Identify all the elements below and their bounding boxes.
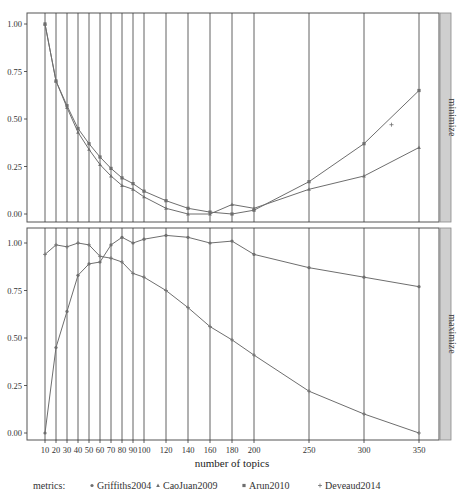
square-marker [164, 199, 167, 202]
y-tick-label: 0.25 [7, 381, 22, 391]
circle-marker [76, 274, 79, 277]
y-tick-label: 0.75 [7, 286, 22, 296]
circle-marker [164, 234, 167, 237]
x-tick-label: 60 [96, 445, 105, 455]
x-tick-label: 50 [85, 445, 94, 455]
square-marker [417, 89, 420, 92]
strip-label-minimize: minimize [447, 99, 457, 137]
legend-item-caojuan2009: CaoJuan2009 [156, 480, 217, 491]
y-tick-label: 0.50 [7, 114, 22, 124]
square-marker [131, 182, 134, 185]
legend: metrics: Griffiths2004CaoJuan2009Arun201… [33, 480, 381, 491]
legend-label: Arun2010 [249, 480, 290, 491]
legend-item-deveaud2014: Deveaud2014 [318, 480, 381, 491]
x-tick-label: 300 [358, 445, 371, 455]
x-axis: 1020304050607080901001201401601802002503… [41, 440, 426, 455]
legend-label: CaoJuan2009 [163, 480, 217, 491]
panel-minimize: 0.000.250.500.751.00minimize [7, 13, 457, 222]
square-marker [242, 484, 245, 487]
y-tick-label: 0.75 [7, 67, 22, 77]
legend-title: metrics: [33, 480, 65, 491]
x-tick-label: 100 [138, 445, 151, 455]
square-marker [87, 142, 90, 145]
x-tick-label: 350 [413, 445, 426, 455]
circle-marker [362, 276, 365, 279]
legend-label: Griffiths2004 [97, 480, 151, 491]
square-marker [362, 142, 365, 145]
circle-marker [65, 310, 68, 313]
x-tick-label: 180 [226, 445, 239, 455]
legend-item-arun2010: Arun2010 [242, 480, 289, 491]
strip-label-maximize: maximize [447, 314, 457, 354]
x-tick-label: 30 [63, 445, 72, 455]
x-tick-label: 120 [160, 445, 173, 455]
legend-item-griffiths2004: Griffiths2004 [90, 480, 151, 491]
circle-marker [142, 238, 145, 241]
circle-marker [208, 241, 211, 244]
circle-marker [43, 431, 46, 434]
x-tick-label: 250 [303, 445, 316, 455]
triangle-marker [156, 484, 160, 487]
y-tick-label: 0.00 [7, 209, 22, 219]
x-tick-label: 90 [129, 445, 138, 455]
x-tick-label: 200 [248, 445, 261, 455]
circle-marker [131, 241, 134, 244]
panel-maximize: 0.000.250.500.751.00maximize [7, 228, 457, 440]
circle-marker [307, 266, 310, 269]
square-marker [109, 167, 112, 170]
x-tick-label: 70 [107, 445, 116, 455]
y-tick-label: 1.00 [7, 19, 22, 29]
y-tick-label: 0.25 [7, 162, 22, 172]
square-marker [186, 207, 189, 210]
x-tick-label: 140 [182, 445, 195, 455]
circle-marker [230, 240, 233, 243]
square-marker [230, 212, 233, 215]
circle-marker [87, 262, 90, 265]
chart: 0.000.250.500.751.00minimize 0.000.250.5… [0, 0, 457, 494]
y-tick-label: 0.00 [7, 428, 22, 438]
square-marker [307, 180, 310, 183]
circle-marker [186, 236, 189, 239]
x-tick-label: 10 [41, 445, 50, 455]
x-tick-label: 20 [52, 445, 61, 455]
circle-marker [109, 243, 112, 246]
square-marker [98, 155, 101, 158]
x-axis-title: number of topics [195, 457, 270, 469]
circle-marker [417, 285, 420, 288]
x-tick-label: 160 [204, 445, 217, 455]
square-marker [142, 190, 145, 193]
x-tick-label: 80 [118, 445, 127, 455]
circle-marker [252, 253, 255, 256]
circle-marker [90, 484, 93, 487]
y-tick-label: 1.00 [7, 238, 22, 248]
circle-marker [120, 236, 123, 239]
circle-marker [98, 260, 101, 263]
legend-label: Deveaud2014 [325, 480, 381, 491]
square-marker [120, 176, 123, 179]
x-tick-label: 40 [74, 445, 83, 455]
y-tick-label: 0.50 [7, 333, 22, 343]
circle-marker [54, 346, 57, 349]
plus-marker [318, 484, 322, 488]
